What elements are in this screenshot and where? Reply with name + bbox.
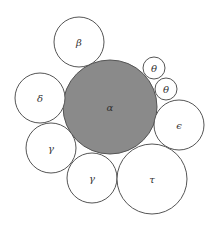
circle-label: α	[107, 102, 114, 113]
circle-label: β	[75, 37, 82, 48]
circle-label: δ	[37, 93, 43, 104]
circle-node-alpha: α	[63, 60, 157, 154]
circle-label: θ	[163, 84, 169, 95]
diagram-canvas: αβθθδϵγγτ	[0, 0, 217, 228]
circle-node-gamma-2: γ	[67, 153, 117, 203]
circle-label: τ	[149, 174, 155, 185]
circle-node-theta-1: θ	[143, 57, 165, 79]
circle-node-delta: δ	[15, 73, 65, 123]
circle-label: θ	[151, 63, 157, 74]
circle-label: ϵ	[176, 120, 182, 131]
circle-node-theta-2: θ	[155, 78, 177, 100]
circle-label: γ	[89, 173, 95, 184]
circle-node-epsilon: ϵ	[154, 100, 204, 150]
circle-label: γ	[48, 143, 54, 154]
circle-node-gamma-1: γ	[26, 123, 76, 173]
circle-packing-diagram: αβθθδϵγγτ	[0, 0, 217, 228]
circle-node-beta: β	[54, 17, 104, 67]
circle-node-tau: τ	[117, 144, 187, 214]
